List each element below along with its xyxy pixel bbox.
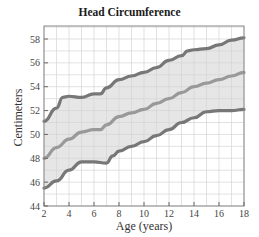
y-tick-label: 56 (30, 57, 40, 68)
x-tick-label: 14 (189, 208, 199, 219)
x-tick-label: 16 (214, 208, 224, 219)
y-tick-label: 50 (30, 129, 40, 140)
y-tick-label: 44 (30, 201, 40, 212)
x-tick-label: 2 (42, 208, 47, 219)
x-tick-label: 10 (139, 208, 149, 219)
y-tick-label: 46 (30, 177, 40, 188)
y-tick-label: 52 (30, 105, 40, 116)
x-tick-label: 8 (117, 208, 122, 219)
y-tick-label: 54 (30, 81, 40, 92)
x-tick-label: 12 (164, 208, 174, 219)
x-tick-label: 6 (92, 208, 97, 219)
x-tick-label: 18 (239, 208, 249, 219)
y-tick-label: 58 (30, 34, 40, 45)
y-tick-label: 48 (30, 153, 40, 164)
chart-plot: 246810121416184446485052545658 (0, 0, 259, 237)
x-tick-label: 4 (67, 208, 72, 219)
